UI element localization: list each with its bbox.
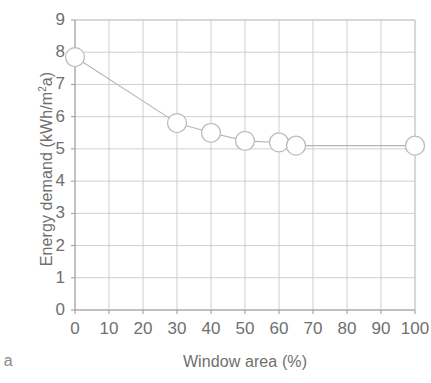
- gridlines: [75, 20, 415, 310]
- axis-lines: [71, 20, 415, 314]
- data-point-marker: [236, 131, 255, 150]
- data-point-marker: [202, 123, 221, 142]
- data-point-marker: [270, 133, 289, 152]
- data-point-marker: [287, 136, 306, 155]
- chart-figure: Energy demand (kWh/m2a) Window area (%) …: [0, 0, 431, 383]
- data-point-marker: [406, 136, 425, 155]
- data-point-marker: [66, 48, 85, 67]
- data-point-marker: [168, 114, 187, 133]
- plot-area: [0, 0, 431, 383]
